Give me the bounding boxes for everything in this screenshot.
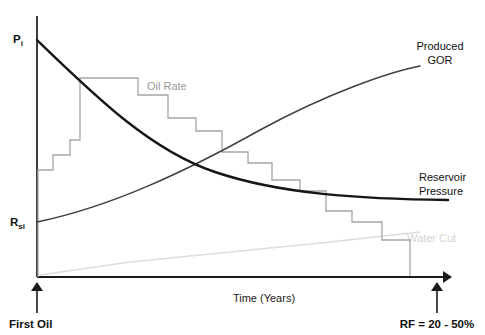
x-axis-title: Time (Years) (233, 292, 295, 304)
chart-background (0, 0, 485, 335)
reservoir-pressure-label-line1: Reservoir (419, 171, 466, 183)
reservoir-pressure-label-line2: Pressure (419, 185, 463, 197)
chart-canvas: Water Cut Oil Rate Produced GOR Reservoi… (0, 0, 485, 335)
oil-rate-label: Oil Rate (147, 80, 187, 92)
recovery-factor-label: RF = 20 - 50% (400, 318, 474, 330)
production-profile-diagram: Water Cut Oil Rate Produced GOR Reservoi… (0, 0, 485, 335)
water-cut-label: Water Cut (407, 232, 456, 244)
first-oil-label: First Oil (9, 318, 52, 330)
pi-sub: i (21, 39, 23, 48)
produced-gor-label-line2: GOR (427, 54, 452, 66)
produced-gor-label-line1: Produced (416, 40, 463, 52)
rsi-sub: si (18, 222, 25, 231)
